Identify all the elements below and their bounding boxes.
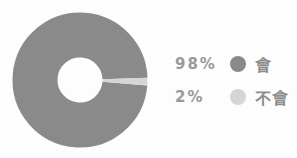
legend-label: 會 [255, 52, 272, 76]
legend-label: 不會 [255, 85, 289, 109]
legend-swatch-icon [230, 56, 246, 72]
legend-percent: 98% [175, 55, 222, 73]
legend-swatch-icon [230, 89, 246, 105]
legend: 98% 會 2% 不會 [175, 53, 289, 108]
legend-percent: 2% [175, 88, 222, 106]
donut-chart [0, 0, 160, 158]
legend-item: 98% 會 [175, 53, 289, 75]
chart-canvas: 98% 會 2% 不會 [0, 0, 297, 158]
legend-item: 2% 不會 [175, 86, 289, 108]
